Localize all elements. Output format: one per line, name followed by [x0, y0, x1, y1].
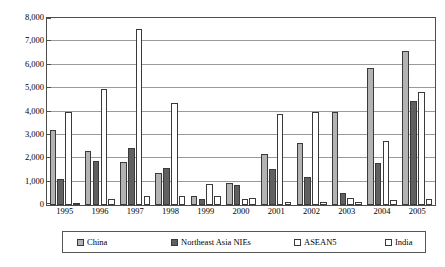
bar-india-2002: [320, 202, 327, 206]
y-axis-tick-label: 6,000: [2, 60, 44, 69]
legend-swatch-asean5: [294, 239, 301, 246]
x-axis-tick-label: 1998: [153, 207, 188, 216]
bar-group: [153, 18, 188, 205]
legend-label: India: [395, 238, 412, 247]
x-axis-tick-label: 2004: [364, 207, 399, 216]
bar-northeast-asia-nies-2003: [340, 193, 347, 205]
x-axis-tick-label: 2000: [223, 207, 258, 216]
y-axis-tick-label: 1,000: [2, 176, 44, 185]
bar-china-2004: [367, 68, 374, 205]
bar-asean5-1995: [65, 112, 72, 206]
bar-group: [47, 18, 82, 205]
y-axis-tick-label: 5,000: [2, 83, 44, 92]
bar-asean5-2000: [242, 199, 249, 205]
y-axis-tick-label: 3,000: [2, 130, 44, 139]
bar-india-2005: [426, 199, 433, 205]
bar-india-2003: [355, 202, 362, 206]
legend-item-asean5[interactable]: ASEAN5: [294, 238, 337, 247]
bar-asean5-1996: [101, 89, 108, 205]
y-axis-tick-label: 2,000: [2, 153, 44, 162]
bar-northeast-asia-nies-2002: [304, 177, 311, 205]
bar-group: [223, 18, 258, 205]
bar-india-2000: [249, 198, 256, 205]
x-axis-tick-label: 1995: [47, 207, 82, 216]
bars-layer: [47, 18, 435, 205]
bar-china-2003: [332, 112, 339, 206]
bar-asean5-2004: [383, 141, 390, 205]
bar-group: [329, 18, 364, 205]
bar-group: [118, 18, 153, 205]
bar-china-2005: [402, 51, 409, 205]
bar-india-1995: [73, 203, 80, 205]
bar-group: [188, 18, 223, 205]
bar-china-2000: [226, 183, 233, 205]
bar-northeast-asia-nies-2005: [410, 101, 417, 205]
bar-asean5-1997: [136, 29, 143, 205]
x-axis-tick-label: 1996: [82, 207, 117, 216]
bar-asean5-2003: [347, 198, 354, 205]
bar-northeast-asia-nies-2000: [234, 185, 241, 205]
bar-northeast-asia-nies-1996: [93, 161, 100, 205]
y-axis: 8,0007,0006,0005,0004,0003,0002,0001,000…: [0, 17, 44, 206]
x-axis-tick-label: 1997: [118, 207, 153, 216]
bar-china-1997: [120, 162, 127, 205]
bar-asean5-2001: [277, 114, 284, 205]
bar-group: [364, 18, 399, 205]
y-axis-tick-label: 4,000: [2, 106, 44, 115]
x-axis-tick-label: 2001: [259, 207, 294, 216]
legend-label: China: [87, 238, 107, 247]
legend-swatch-china: [77, 239, 84, 246]
x-axis-tick-label: 1999: [188, 207, 223, 216]
legend-item-china[interactable]: China: [77, 238, 107, 247]
bar-asean5-1999: [206, 184, 213, 205]
bar-china-1995: [50, 130, 57, 205]
bar-china-1998: [155, 173, 162, 205]
bar-india-1997: [144, 196, 151, 205]
y-axis-tick-label: 8,000: [2, 13, 44, 22]
bar-china-1996: [85, 151, 92, 205]
bar-northeast-asia-nies-1997: [128, 148, 135, 205]
bar-india-1999: [214, 196, 221, 205]
bar-northeast-asia-nies-1995: [57, 179, 64, 205]
legend-item-northeast-asia-nies[interactable]: Northeast Asia NIEs: [171, 238, 251, 247]
bar-china-2001: [261, 154, 268, 205]
legend-swatch-india: [385, 239, 392, 246]
bar-india-2001: [285, 202, 292, 206]
bar-northeast-asia-nies-2001: [269, 169, 276, 205]
legend-swatch-nies: [171, 239, 178, 246]
x-axis: 1995199619971998199920002001200220032004…: [47, 207, 435, 221]
x-axis-tick-label: 2005: [400, 207, 435, 216]
chart-legend: ChinaNortheast Asia NIEsASEAN5India: [62, 231, 426, 253]
bar-group: [82, 18, 117, 205]
legend-label: ASEAN5: [304, 238, 337, 247]
bar-northeast-asia-nies-2004: [375, 163, 382, 205]
bar-china-1999: [191, 196, 198, 205]
bar-group: [259, 18, 294, 205]
bar-northeast-asia-nies-1999: [199, 199, 206, 205]
legend-item-india[interactable]: India: [385, 238, 412, 247]
bar-asean5-2005: [418, 92, 425, 205]
bar-group: [294, 18, 329, 205]
bar-northeast-asia-nies-1998: [163, 168, 170, 205]
bar-india-1996: [108, 199, 115, 205]
legend-label: Northeast Asia NIEs: [181, 238, 251, 247]
bar-asean5-1998: [171, 103, 178, 205]
bar-india-1998: [179, 196, 186, 205]
bar-india-2004: [390, 200, 397, 205]
bar-china-2002: [297, 143, 304, 205]
x-axis-tick-label: 2003: [329, 207, 364, 216]
bar-group: [400, 18, 435, 205]
y-axis-tick-label: 0: [2, 200, 44, 209]
y-axis-tick-label: 7,000: [2, 36, 44, 45]
bar-asean5-2002: [312, 112, 319, 206]
x-axis-tick-label: 2002: [294, 207, 329, 216]
grouped-bar-chart: 8,0007,0006,0005,0004,0003,0002,0001,000…: [0, 0, 445, 267]
